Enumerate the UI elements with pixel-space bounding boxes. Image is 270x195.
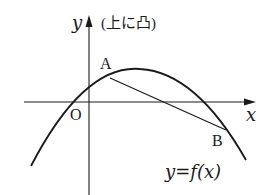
y-axis-label: y	[72, 14, 82, 32]
y-axis-arrow-icon	[86, 15, 93, 27]
x-axis-label: x	[246, 106, 256, 124]
point-a-label: A	[100, 56, 112, 72]
concavity-note: (上に凸)	[101, 16, 156, 31]
curve-f	[31, 69, 246, 166]
curve-label: y=f(x)	[165, 163, 221, 181]
chord-ab	[110, 78, 226, 130]
origin-label: O	[70, 107, 82, 123]
point-b-label: B	[212, 133, 223, 149]
